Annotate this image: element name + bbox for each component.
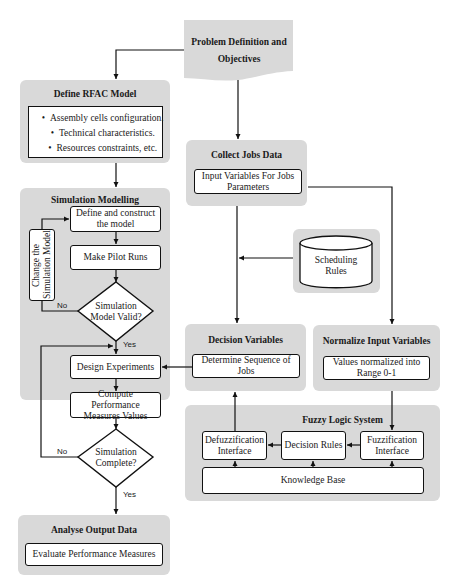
define-construct-box: Define and construct the model [70,206,161,232]
change-model-label: Change the Simulation Model [31,230,53,300]
valid-yes-label: Yes [123,340,136,349]
model-valid-label: Simulation Model Valid? [84,301,148,323]
rfac-model-items: •Assembly cells configuration. •Technica… [37,111,164,156]
valid-no-label: No [57,301,67,310]
analyse-output-panel: Analyse Output Data Evaluate Performance… [18,515,170,575]
normalize-input-title: Normalize Input Variables [313,336,440,346]
defuzzification-box: Defuzzification Interface [202,431,267,460]
collect-jobs-data-title: Collect Jobs Data [186,150,307,160]
evaluate-measures-box: Evaluate Performance Measures [25,543,163,566]
normalize-input-panel: Normalize Input Variables Values normali… [313,325,440,391]
complete-no-label: No [57,447,67,456]
simulation-complete-label: Simulation Complete? [84,447,148,469]
analyse-output-title: Analyse Output Data [18,525,170,535]
simulation-modelling-title: Simulation Modelling [20,195,170,205]
fuzzy-logic-panel: Fuzzy Logic System Defuzzification Inter… [185,405,440,501]
collect-jobs-data-panel: Collect Jobs Data Input Variables For Jo… [186,140,307,206]
rfac-model-items-box: •Assembly cells configuration. •Technica… [28,106,163,158]
rfac-item: •Assembly cells configuration. [37,111,164,126]
define-rfac-model-title: Define RFAC Model [20,89,170,99]
rfac-item: •Resources constraints, etc. [37,141,164,156]
rfac-item: •Technical characteristics. [37,126,164,141]
complete-yes-label: Yes [123,490,136,499]
decision-variables-title: Decision Variables [185,335,306,345]
knowledge-base-box: Knowledge Base [202,467,424,494]
decision-rules-box: Decision Rules [281,431,346,460]
input-variables-box: Input Variables For Jobs Parameters [194,169,302,194]
scheduling-rules-label: Scheduling Rules [306,255,366,277]
pilot-runs-box: Make Pilot Runs [70,245,161,270]
fuzzy-logic-title: Fuzzy Logic System [245,415,440,425]
decision-variables-panel: Decision Variables Determine Sequence of… [185,324,306,391]
determine-sequence-box: Determine Sequence of Jobs [192,354,300,378]
design-experiments-box: Design Experiments [70,355,161,379]
problem-definition-label: Problem Definition and Objectives [186,34,292,68]
define-rfac-model-panel: Define RFAC Model •Assembly cells config… [20,80,170,163]
compute-measures-box: Compute Performance Measures Values [70,392,161,418]
values-normalized-box: Values normalized into Range 0-1 [323,356,430,380]
fuzzification-box: Fuzzification Interface [360,431,424,460]
